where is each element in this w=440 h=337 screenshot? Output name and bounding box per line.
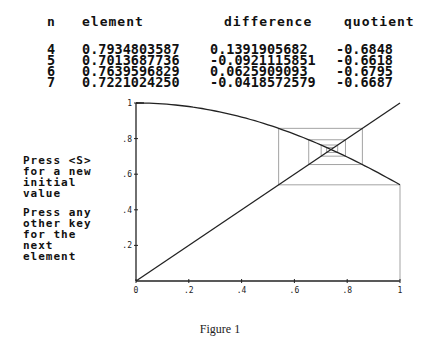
- x-tick-label: .8: [342, 286, 352, 295]
- y-tick-label: .2: [122, 241, 132, 250]
- x-tick-label: 1: [398, 286, 403, 295]
- y-tick-label: .4: [122, 206, 132, 215]
- cobweb-plot: 0.2.4.6.81.2.4.6.81: [0, 0, 440, 320]
- cos-curve: [136, 103, 400, 185]
- figure-caption: Figure 1: [0, 322, 440, 337]
- y-tick-label: .8: [122, 135, 132, 144]
- x-tick-label: 0: [134, 286, 139, 295]
- x-tick-label: .2: [184, 286, 194, 295]
- x-tick-label: .6: [290, 286, 300, 295]
- y-tick-label: 1: [127, 99, 132, 108]
- identity-line: [136, 103, 400, 281]
- y-tick-label: .6: [122, 170, 132, 179]
- cobweb-lines: [279, 128, 400, 281]
- plot-curves: [136, 103, 400, 281]
- cobweb-path: [279, 128, 400, 281]
- x-tick-label: .4: [237, 286, 247, 295]
